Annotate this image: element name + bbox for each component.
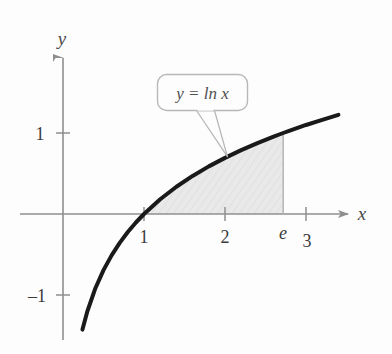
x-axis-label: x	[357, 203, 367, 224]
y-tick-label-neg1: –1	[27, 286, 46, 306]
y-tick-label-1: 1	[36, 124, 45, 144]
x-tick-label-1: 1	[140, 227, 149, 247]
graph-canvas: y = ln x y x 1 2 e 3 1 –1	[0, 0, 392, 354]
ln-x-figure: y = ln x y x 1 2 e 3 1 –1	[0, 0, 392, 354]
x-tick-label-e: e	[279, 223, 287, 243]
shaded-area-under-curve	[144, 133, 283, 214]
y-axis-label: y	[56, 28, 67, 49]
callout-label: y = ln x	[174, 84, 229, 103]
x-tick-label-3: 3	[303, 231, 312, 251]
callout-pointer	[197, 111, 228, 157]
x-tick-label-2: 2	[221, 227, 230, 247]
ln-curve-main	[82, 115, 338, 330]
